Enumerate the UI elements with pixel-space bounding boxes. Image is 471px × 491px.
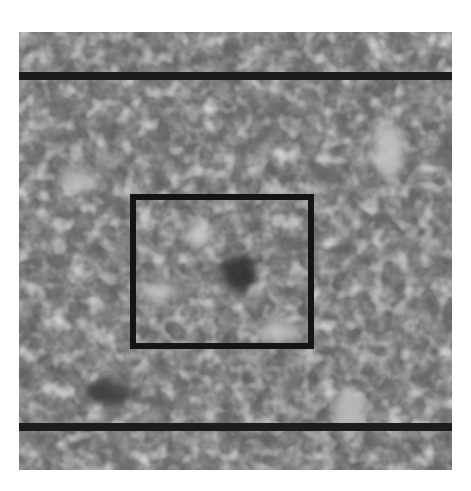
dark-band-top [19, 72, 452, 80]
dark-band-bottom [19, 423, 452, 431]
micrograph-image [19, 32, 452, 470]
region-of-interest-box [130, 194, 314, 349]
